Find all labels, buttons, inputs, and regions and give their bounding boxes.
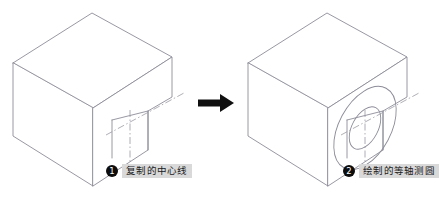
- illustration-figure: 1 复制的中心线 2 绘制的等轴测圆: [0, 0, 440, 202]
- right-arrow-icon: [198, 94, 234, 112]
- callout-copied-centerline: 1 复制的中心线: [106, 163, 192, 178]
- callout-badge-1: 1: [106, 165, 118, 177]
- callout-label-1: 复制的中心线: [122, 164, 192, 178]
- callout-badge-2: 2: [343, 165, 355, 177]
- isometric-block-after: [248, 13, 407, 186]
- isometric-block-before: [13, 13, 172, 186]
- process-arrow: [196, 92, 238, 114]
- callout-drawn-isometric-circle: 2 绘制的等轴测圆: [343, 163, 439, 178]
- callout-label-2: 绘制的等轴测圆: [359, 164, 439, 178]
